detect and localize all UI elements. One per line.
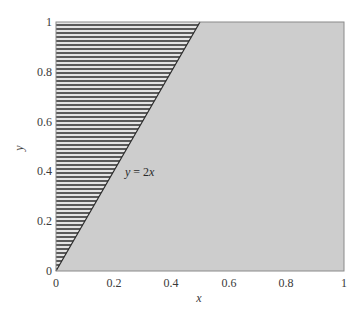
y-tick-label: 0.4: [37, 164, 52, 178]
x-tick-label: 0: [53, 276, 59, 290]
x-axis-ticks: 0 0.2 0.4 0.6 0.8 1: [53, 276, 347, 290]
x-axis-label: x: [195, 291, 202, 305]
annotation-eq: = 2: [130, 165, 149, 179]
plot-area: [56, 22, 344, 271]
y-axis-ticks: 0 0.2 0.4 0.6 0.8 1: [37, 15, 52, 278]
y-tick-label: 1: [46, 15, 52, 29]
annotation-rhs: x: [148, 165, 155, 179]
y-axis-label: y: [12, 145, 26, 152]
x-tick-label: 0.2: [107, 276, 122, 290]
x-tick-label: 0.6: [222, 276, 237, 290]
y-tick-label: 0.6: [37, 115, 52, 129]
x-tick-label: 1: [341, 276, 347, 290]
x-tick-label: 0.8: [279, 276, 294, 290]
y-tick-label: 0.2: [37, 214, 52, 228]
x-tick-label: 0.4: [164, 276, 179, 290]
chart-figure: 0 0.2 0.4 0.6 0.8 1 0 0.2 0.4 0.6 0.8 1 …: [0, 0, 363, 316]
y-tick-label: 0.8: [37, 65, 52, 79]
line-annotation: y = 2x: [124, 165, 155, 179]
y-tick-label: 0: [46, 264, 52, 278]
